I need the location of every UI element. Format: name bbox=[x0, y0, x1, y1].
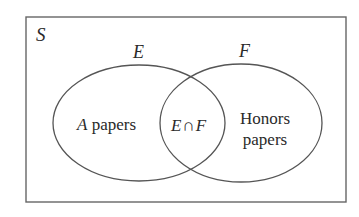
f-only-region-line1: Honors bbox=[240, 109, 290, 128]
venn-diagram: S E F A papers E∩F Honors papers bbox=[0, 0, 359, 217]
intersection-left: E bbox=[170, 116, 182, 135]
e-only-region-label: A papers bbox=[76, 115, 136, 134]
intersection-label: E∩F bbox=[170, 116, 207, 135]
universe-label: S bbox=[36, 24, 46, 45]
f-only-region-line2: papers bbox=[243, 130, 287, 149]
intersection-right: F bbox=[195, 116, 207, 135]
e-only-region-text: papers bbox=[87, 115, 136, 134]
set-e-label: E bbox=[132, 42, 144, 62]
intersection-symbol: ∩ bbox=[182, 116, 194, 135]
e-only-region-italic: A bbox=[76, 115, 88, 134]
set-f-label: F bbox=[238, 41, 251, 61]
universe-box bbox=[26, 17, 346, 202]
